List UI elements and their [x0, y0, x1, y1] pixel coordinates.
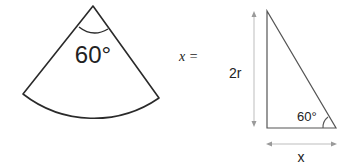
base-dimension-arrow — [266, 142, 337, 147]
sector-angle-arc — [79, 27, 108, 33]
arrowhead-down-icon — [252, 121, 257, 127]
diagram-canvas: 60° x = 60° 2r x — [0, 0, 351, 165]
arrowhead-up-icon — [252, 11, 257, 17]
arrowhead-right-icon — [331, 142, 337, 147]
sector-angle-label: 60° — [75, 41, 111, 68]
triangle-angle-arc — [323, 117, 328, 128]
height-dimension-arrow — [252, 11, 257, 127]
height-label: 2r — [229, 65, 242, 81]
base-label: x — [298, 149, 305, 165]
sector-figure: 60° — [23, 6, 159, 118]
triangle-angle-label: 60° — [297, 109, 317, 124]
equation-label: x = — [178, 49, 198, 64]
triangle-figure: 60° 2r x — [229, 11, 337, 165]
arrowhead-left-icon — [266, 142, 272, 147]
